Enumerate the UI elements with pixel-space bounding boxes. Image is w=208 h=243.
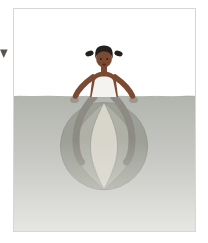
girl-mouth — [102, 64, 106, 66]
page — [0, 0, 208, 243]
illustration-canvas — [0, 0, 208, 243]
girl-left-eye — [100, 58, 102, 60]
girl-right-eye — [106, 58, 108, 60]
ball-depth-fade — [60, 102, 148, 190]
